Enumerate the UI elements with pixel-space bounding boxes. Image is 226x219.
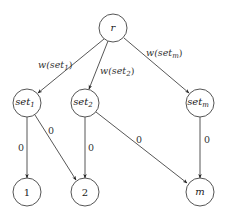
node-1: 1 — [13, 178, 41, 206]
node-set1: set1 — [13, 89, 41, 117]
node-setm: setm — [186, 89, 214, 117]
edge-label-w-set2: w(set2) — [100, 65, 134, 78]
node-m: m — [186, 178, 214, 206]
edge-label-w-set1: w(set1) — [38, 59, 72, 72]
node-set2: set2 — [71, 89, 99, 117]
svg-text:2: 2 — [82, 187, 88, 198]
edge-label-set1-2: 0 — [48, 125, 54, 136]
graph-diagram: w(set1) w(set2) w(setm) 0 0 0 0 0 r set1… — [0, 0, 226, 219]
edge-set2-m — [96, 112, 187, 183]
edge-label-set1-1: 0 — [18, 142, 24, 153]
svg-text:1: 1 — [24, 187, 30, 198]
edge-label-set2-2: 0 — [88, 142, 94, 153]
svg-text:m: m — [195, 186, 204, 197]
edge-label-setm-m: 0 — [204, 134, 210, 145]
node-r: r — [99, 14, 127, 42]
edge-set1-2 — [35, 115, 76, 180]
edge-label-set2-m: 0 — [136, 134, 142, 145]
node-2: 2 — [71, 178, 99, 206]
edge-label-w-setm: w(setm) — [146, 47, 183, 60]
